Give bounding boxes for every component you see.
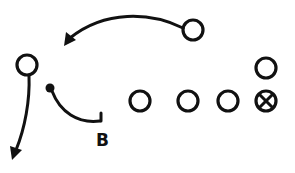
play-diagram: B xyxy=(0,0,295,173)
player-deep-right xyxy=(183,20,203,40)
player-off-center xyxy=(256,58,276,78)
player-line-1 xyxy=(130,91,150,111)
route-deep-right xyxy=(70,16,183,38)
player-center xyxy=(256,91,276,111)
player-line-2 xyxy=(178,91,198,111)
route-back-b xyxy=(52,91,100,121)
label-b: B xyxy=(96,130,109,150)
player-line-3 xyxy=(218,91,238,111)
arrowhead-left-end xyxy=(10,146,22,160)
route-left-end xyxy=(16,76,29,150)
player-left-end xyxy=(17,55,37,75)
